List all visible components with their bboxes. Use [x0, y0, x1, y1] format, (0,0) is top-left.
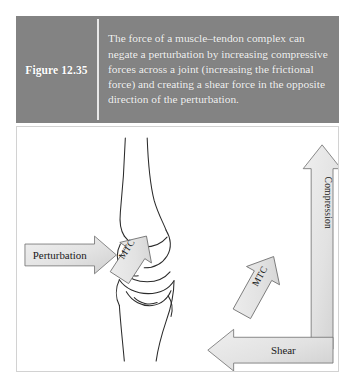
arrow-mtc-vector: MTC [225, 247, 290, 323]
figure-number-label: Figure 12.35 [25, 64, 87, 76]
illustration-svg: MTC Perturbation MTC Compr [17, 127, 338, 371]
figure-illustration-panel: MTC Perturbation MTC Compr [16, 126, 339, 372]
arrow-compression: Compression [303, 145, 338, 349]
arrow-perturbation: Perturbation [25, 236, 116, 274]
figure-caption-band: Figure 12.35 The force of a muscle–tendo… [16, 16, 339, 123]
arrow-compression-label: Compression [323, 177, 333, 229]
figure-number-cell: Figure 12.35 [16, 16, 97, 123]
figure-caption-text: The force of a muscle–tendon complex can… [108, 31, 333, 107]
arrow-perturbation-label: Perturbation [33, 249, 88, 261]
figure-container: Figure 12.35 The force of a muscle–tendo… [16, 16, 339, 372]
arrow-shear-label: Shear [271, 344, 296, 356]
figure-caption-cell: The force of a muscle–tendon complex can… [99, 16, 339, 123]
force-vector-diagram: MTC Compression Shear [208, 145, 338, 371]
